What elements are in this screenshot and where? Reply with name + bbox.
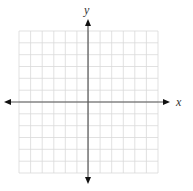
coordinate-plane <box>0 0 193 191</box>
x-axis-left-arrow-icon <box>4 99 11 105</box>
axes <box>4 19 170 184</box>
x-axis-right-arrow-icon <box>163 99 170 105</box>
y-axis-up-arrow-icon <box>85 19 91 26</box>
x-axis-label: x <box>176 95 181 110</box>
y-axis-down-arrow-icon <box>85 177 91 184</box>
y-axis-label: y <box>84 3 89 18</box>
